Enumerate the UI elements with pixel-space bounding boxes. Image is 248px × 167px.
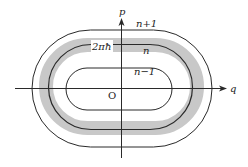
- orbit-middle-label: n: [143, 45, 149, 56]
- orbit-inner-label: n−1: [134, 66, 155, 77]
- orbit-outer-label: n+1: [136, 18, 157, 29]
- p-axis-label: p: [119, 6, 126, 17]
- q-axis-label: q: [230, 83, 236, 94]
- band-width-label: 2πħ: [91, 41, 111, 52]
- phase-space-diagram: p q O n+1 n n−1 2πħ: [0, 0, 248, 167]
- origin-label: O: [108, 90, 116, 101]
